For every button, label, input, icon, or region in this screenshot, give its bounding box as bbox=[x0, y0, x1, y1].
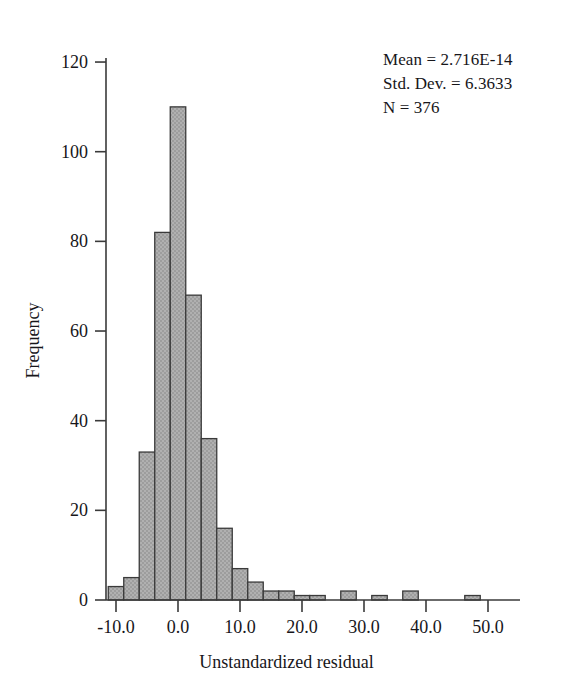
y-tick-label: 20 bbox=[70, 500, 88, 520]
y-axis-ticks: 020406080100120 bbox=[61, 52, 106, 610]
histogram-bar bbox=[170, 107, 186, 600]
y-tick-label: 80 bbox=[70, 231, 88, 251]
y-tick-label: 40 bbox=[70, 411, 88, 431]
stat-n: N = 376 bbox=[383, 96, 513, 120]
x-tick-label: 0.0 bbox=[167, 617, 190, 637]
histogram-bar bbox=[108, 587, 124, 600]
histogram-bar bbox=[263, 591, 279, 600]
histogram-bar bbox=[248, 582, 264, 600]
x-tick-label: 50.0 bbox=[472, 617, 504, 637]
histogram-bar bbox=[155, 232, 171, 600]
histogram-bar bbox=[232, 569, 248, 600]
stat-std-dev: Std. Dev. = 6.3633 bbox=[383, 72, 513, 96]
statistics-annotation: Mean = 2.716E-14 Std. Dev. = 6.3633 N = … bbox=[383, 48, 513, 120]
x-tick-label: 10.0 bbox=[224, 617, 256, 637]
y-tick-label: 0 bbox=[79, 590, 88, 610]
histogram-bar bbox=[139, 452, 155, 600]
histogram-bar bbox=[217, 528, 233, 600]
y-tick-label: 60 bbox=[70, 321, 88, 341]
histogram-figure: -10.00.010.020.030.040.050.0 02040608010… bbox=[0, 0, 573, 694]
x-axis-label: Unstandardized residual bbox=[0, 652, 573, 673]
histogram-bar bbox=[124, 578, 140, 600]
x-tick-label: 30.0 bbox=[348, 617, 380, 637]
stat-mean: Mean = 2.716E-14 bbox=[383, 48, 513, 72]
histogram-bar bbox=[201, 439, 217, 600]
y-axis-label: Frequency bbox=[23, 261, 44, 421]
histogram-bar bbox=[186, 295, 202, 600]
x-tick-label: -10.0 bbox=[97, 617, 135, 637]
y-tick-label: 100 bbox=[61, 142, 88, 162]
x-axis-ticks: -10.00.010.020.030.040.050.0 bbox=[97, 600, 504, 637]
histogram-bar bbox=[279, 591, 295, 600]
histogram-bar bbox=[341, 591, 357, 600]
histogram-bar bbox=[403, 591, 419, 600]
y-tick-label: 120 bbox=[61, 52, 88, 72]
x-tick-label: 20.0 bbox=[286, 617, 318, 637]
x-tick-label: 40.0 bbox=[410, 617, 442, 637]
bars-group bbox=[108, 107, 480, 600]
